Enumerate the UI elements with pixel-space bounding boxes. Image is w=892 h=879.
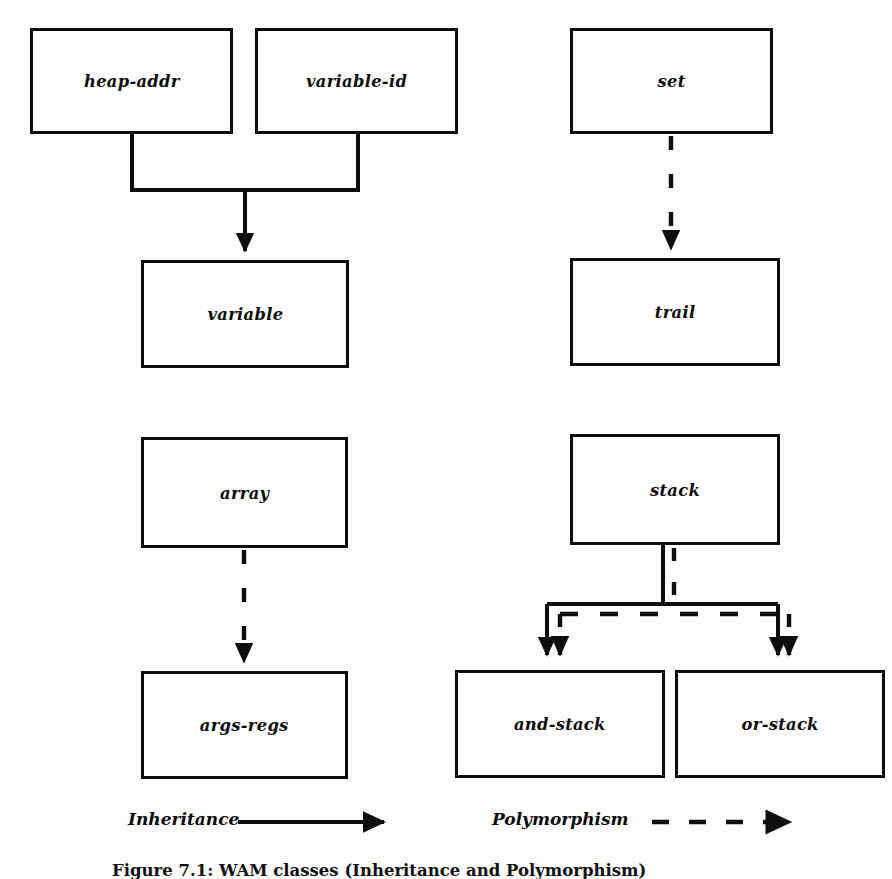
edge-heapaddr-variableid-to-variable (132, 134, 358, 251)
class-label: args-regs (200, 715, 289, 735)
edge-stack-polymorphism-bus (560, 548, 789, 655)
legend-polymorphism: Polymorphism (492, 809, 629, 829)
class-box-array[interactable]: array (141, 437, 348, 548)
class-label: variable (207, 304, 283, 324)
class-label: variable-id (306, 71, 407, 91)
class-box-args-regs[interactable]: args-regs (141, 671, 348, 779)
class-box-variable[interactable]: variable (141, 260, 349, 368)
class-label: heap-addr (84, 71, 180, 91)
figure-wam-class-hierarchy: heap-addr variable-id set variable trail… (0, 0, 892, 879)
class-label: and-stack (514, 714, 606, 734)
class-label: stack (650, 480, 700, 500)
legend-inheritance: Inheritance (128, 809, 239, 829)
class-label: trail (655, 302, 696, 322)
class-label: set (658, 71, 686, 91)
class-box-trail[interactable]: trail (570, 258, 780, 366)
class-box-variable-id[interactable]: variable-id (255, 28, 458, 134)
class-box-and-stack[interactable]: and-stack (455, 670, 665, 778)
class-label: or-stack (741, 714, 818, 734)
legend-inheritance-label: Inheritance (128, 809, 239, 829)
class-box-stack[interactable]: stack (570, 434, 780, 545)
class-box-set[interactable]: set (570, 28, 773, 134)
class-box-heap-addr[interactable]: heap-addr (30, 28, 233, 134)
legend-polymorphism-label: Polymorphism (492, 809, 629, 829)
class-box-or-stack[interactable]: or-stack (675, 670, 885, 778)
class-label: array (220, 483, 269, 503)
figure-caption: Figure 7.1: WAM classes (Inheritance and… (112, 861, 872, 879)
edge-stack-inheritance-bus (547, 545, 778, 655)
